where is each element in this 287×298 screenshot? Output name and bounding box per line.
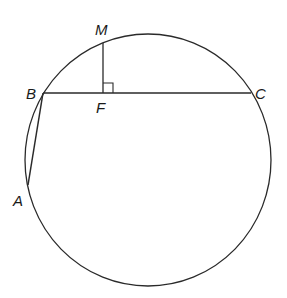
label-b: B [26, 85, 36, 102]
label-f: F [96, 99, 106, 116]
label-c: C [255, 85, 266, 102]
geometry-diagram: M B F C A [0, 0, 287, 298]
right-angle-marker [103, 83, 113, 93]
chord-ab [28, 93, 43, 185]
label-a: A [12, 192, 23, 209]
circle [25, 34, 271, 286]
label-m: M [95, 21, 108, 38]
